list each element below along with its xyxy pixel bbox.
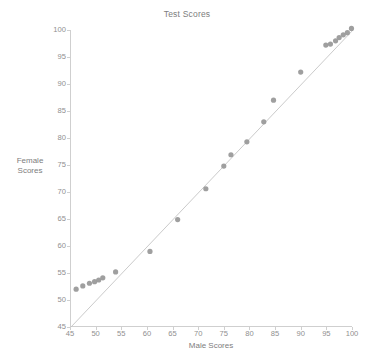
- data-point: [271, 98, 276, 103]
- x-axis-label: Male Scores: [70, 341, 352, 350]
- y-tick-mark: [67, 219, 70, 220]
- y-tick-label: 85: [42, 107, 66, 115]
- y-tick-mark: [67, 57, 70, 58]
- y-tick-mark: [67, 138, 70, 139]
- y-tick-label: 55: [42, 269, 66, 277]
- reference-line: [71, 30, 353, 327]
- chart-title: Test Scores: [0, 9, 374, 19]
- x-tick-mark: [326, 327, 327, 330]
- y-tick-mark: [67, 30, 70, 31]
- x-tick-mark: [121, 327, 122, 330]
- data-point: [147, 249, 152, 254]
- x-tick-mark: [224, 327, 225, 330]
- data-point: [100, 275, 105, 280]
- data-point: [345, 30, 350, 35]
- y-tick-mark: [67, 111, 70, 112]
- x-tick-mark: [173, 327, 174, 330]
- data-point: [80, 283, 85, 288]
- y-tick-label: 70: [42, 188, 66, 196]
- y-axis-tick-labels: 4550556065707580859095100: [40, 30, 66, 327]
- data-point: [221, 163, 226, 168]
- data-point: [244, 139, 249, 144]
- y-tick-label: 95: [42, 53, 66, 61]
- x-tick-mark: [96, 327, 97, 330]
- y-tick-label: 75: [42, 161, 66, 169]
- y-tick-label: 100: [42, 26, 66, 34]
- data-point: [113, 269, 118, 274]
- data-point: [203, 186, 208, 191]
- data-point: [328, 41, 333, 46]
- y-tick-mark: [67, 192, 70, 193]
- data-point: [175, 217, 180, 222]
- y-tick-label: 90: [42, 80, 66, 88]
- x-tick-mark: [301, 327, 302, 330]
- data-point: [349, 26, 354, 31]
- x-tick-label: 100: [337, 329, 367, 338]
- y-tick-mark: [67, 300, 70, 301]
- scatter-chart: Test Scores Female Scores 45505560657075…: [0, 0, 374, 361]
- y-tick-label: 50: [42, 296, 66, 304]
- plot-canvas: [71, 30, 353, 327]
- data-point: [74, 287, 79, 292]
- y-tick-mark: [67, 84, 70, 85]
- x-tick-mark: [70, 327, 71, 330]
- y-tick-mark: [67, 273, 70, 274]
- data-point: [323, 43, 328, 48]
- data-point: [298, 70, 303, 75]
- plot-area: [70, 30, 352, 327]
- data-point: [87, 281, 92, 286]
- y-tick-mark: [67, 246, 70, 247]
- x-tick-mark: [198, 327, 199, 330]
- x-tick-mark: [275, 327, 276, 330]
- y-tick-label: 65: [42, 215, 66, 223]
- y-tick-mark: [67, 165, 70, 166]
- x-tick-mark: [249, 327, 250, 330]
- data-point: [261, 119, 266, 124]
- y-tick-label: 60: [42, 242, 66, 250]
- x-tick-mark: [147, 327, 148, 330]
- x-tick-mark: [352, 327, 353, 330]
- y-tick-label: 80: [42, 134, 66, 142]
- data-point: [228, 152, 233, 157]
